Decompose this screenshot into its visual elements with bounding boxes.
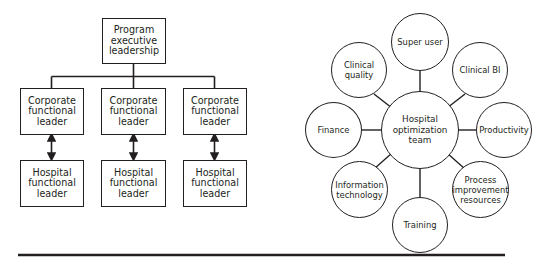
box-label: Corporate functional leader [191, 96, 239, 128]
box-label: Hospital functional leader [191, 168, 239, 200]
circle-label: Finance [317, 125, 349, 135]
corporate-functional-leader-box-2: Corporate functional leader [101, 88, 166, 135]
circle-label: Clinical BI [459, 65, 500, 75]
corporate-functional-leader-box-1: Corporate functional leader [20, 88, 84, 135]
box-label: Hospital functional leader [110, 168, 158, 200]
box-label: Corporate functional leader [28, 96, 76, 128]
process-improvement-resources-circle: Process improvement resources [452, 161, 509, 218]
hospital-functional-leader-box-1: Hospital functional leader [20, 160, 84, 207]
productivity-circle: Productivity [476, 102, 532, 158]
box-label: Corporate functional leader [110, 96, 158, 128]
circle-label: Information technology [335, 180, 383, 200]
circle-label: Hospital optimization team [393, 114, 448, 146]
super-user-circle: Super user [391, 13, 449, 71]
circle-label: Training [403, 220, 436, 230]
box-label: Program executive leadership [109, 25, 159, 57]
circle-label: Process improvement resources [452, 175, 508, 205]
finance-circle: Finance [305, 102, 362, 158]
hospital-optimization-team-circle: Hospital optimization team [381, 91, 459, 169]
box-label: Hospital functional leader [28, 168, 76, 200]
clinical-quality-circle: Clinical quality [331, 42, 387, 98]
circle-label: Super user [397, 37, 442, 47]
circle-label: Productivity [479, 125, 529, 135]
information-technology-circle: Information technology [331, 161, 388, 218]
hospital-functional-leader-box-2: Hospital functional leader [101, 160, 166, 207]
training-circle: Training [392, 197, 448, 253]
corporate-functional-leader-box-3: Corporate functional leader [183, 88, 247, 135]
circle-label: Clinical quality [344, 60, 374, 80]
clinical-bi-circle: Clinical BI [452, 42, 508, 98]
hospital-functional-leader-box-3: Hospital functional leader [183, 160, 247, 207]
program-executive-leadership-box: Program executive leadership [102, 18, 166, 64]
